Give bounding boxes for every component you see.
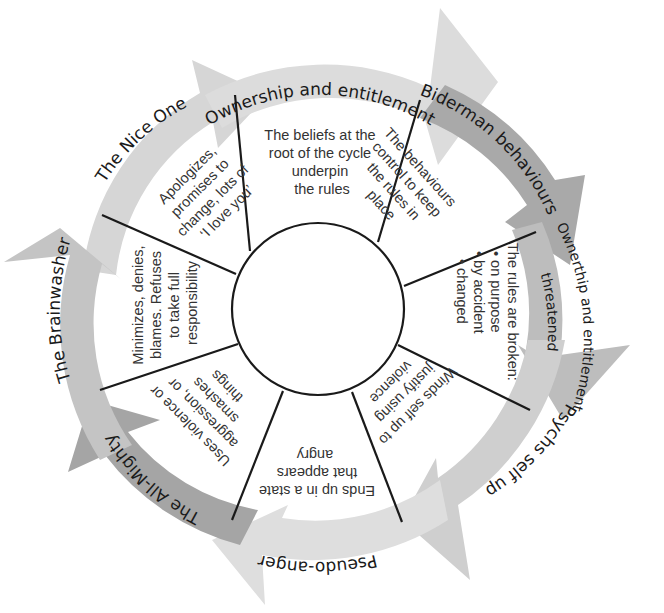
segment-rules-broken: The rules are broken: • on purpose • by … — [454, 243, 521, 385]
segment-ends-up: Ends up in a state that appears angry — [255, 447, 375, 499]
cycle-wheel-diagram: Ownership and entitlement Biderman behav… — [0, 0, 664, 613]
center-circle — [232, 223, 404, 395]
segment-line: root of the cycle — [269, 145, 371, 161]
svg-text:The rules are broken: •: The rules are broken: • on purpose • by … — [454, 243, 521, 385]
svg-text:The beliefs at the root: The beliefs at the root of the cycle und… — [264, 127, 379, 197]
svg-text:Ends up in a state that: Ends up in a state that appears angry — [255, 447, 375, 499]
segment-line: The beliefs at the — [264, 127, 375, 143]
svg-text:Minimizes, denies, blame: Minimizes, denies, blames. Refuses to ta… — [130, 241, 200, 364]
segment-line: the rules — [294, 181, 350, 197]
segment-line: underpin — [292, 163, 348, 179]
segment-beliefs: The beliefs at the root of the cycle und… — [264, 127, 379, 197]
segment-minimizes: Minimizes, denies, blames. Refuses to ta… — [130, 241, 200, 364]
ring-label-all-mighty: The All-Mighty — [99, 431, 204, 529]
spoke — [232, 391, 283, 520]
